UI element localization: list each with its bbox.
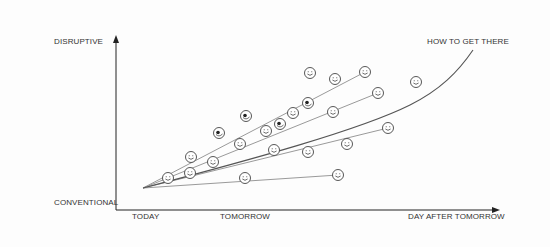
- y-axis-bottom-label: CONVENTIONAL: [54, 198, 118, 207]
- smiley-face-icon: [383, 123, 394, 134]
- eye-face-icon: [241, 111, 252, 122]
- diagram-canvas: DISRUPTIVE CONVENTIONAL TODAY TOMORROW D…: [0, 0, 550, 247]
- ray-line: [143, 128, 388, 188]
- y-axis-top-label: DISRUPTIVE: [54, 37, 103, 46]
- smiley-face-icon: [186, 152, 197, 163]
- eye-face-icon: [275, 119, 286, 130]
- smiley-face-icon: [235, 139, 246, 150]
- smiley-face-icon: [261, 126, 272, 137]
- smiley-face-icon: [411, 77, 422, 88]
- smiley-face-icon: [303, 147, 314, 158]
- smiley-face-icon: [333, 170, 344, 181]
- smiley-faces: [163, 67, 422, 184]
- x-axis-label-today: TODAY: [132, 212, 159, 221]
- x-axis-label-tomorrow: TOMORROW: [220, 212, 270, 221]
- curve-label: HOW TO GET THERE: [427, 37, 509, 46]
- eye-face-icon: [303, 98, 314, 109]
- smiley-face-icon: [373, 88, 384, 99]
- smiley-face-icon: [330, 74, 341, 85]
- smiley-face-icon: [360, 67, 371, 78]
- smiley-face-icon: [342, 139, 353, 150]
- y-axis-arrow-icon: [113, 35, 119, 43]
- x-axis-label-day-after-tomorrow: DAY AFTER TOMORROW: [408, 212, 505, 221]
- smiley-face-icon: [328, 107, 339, 118]
- smiley-face-icon: [240, 173, 251, 184]
- smiley-face-icon: [208, 157, 219, 168]
- smiley-face-icon: [305, 68, 316, 79]
- smiley-face-icon: [269, 145, 280, 156]
- eye-face-icon: [214, 128, 225, 139]
- smiley-face-icon: [288, 108, 299, 119]
- smiley-face-icon: [185, 168, 196, 179]
- smiley-face-icon: [163, 173, 174, 184]
- ray-line: [143, 72, 365, 188]
